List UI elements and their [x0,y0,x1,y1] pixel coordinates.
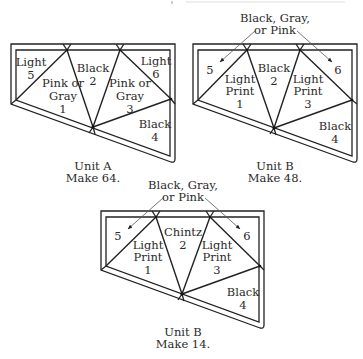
unit-b-48-labels: 5 Light Print 1 Black 2 Light Print 3 6 … [206,61,352,146]
svg-text:Print: Print [134,250,163,264]
svg-text:5: 5 [206,63,213,77]
svg-text:Light: Light [16,55,47,69]
svg-text:2: 2 [89,74,96,88]
svg-text:Make 48.: Make 48. [248,171,302,185]
svg-text:2: 2 [270,74,277,88]
unit-a-caption: Unit A Make 64. [66,159,120,185]
arrow-to-patch-6 [205,198,240,229]
svg-text:Print: Print [203,250,232,264]
svg-text:Pink or: Pink or [42,76,84,90]
svg-text:Gray: Gray [49,89,78,103]
svg-text:Black: Black [319,119,352,133]
svg-text:Print: Print [226,84,255,98]
quilt-units-diagram: Light 5 Pink or Gray 1 Black 2 Pink or G… [0,0,363,359]
svg-text:Light: Light [141,54,172,68]
svg-text:1: 1 [59,102,66,116]
svg-text:6: 6 [334,63,341,77]
svg-text:3: 3 [213,263,220,277]
unit-b-14-callout: Black, Gray, or Pink [128,178,240,229]
svg-text:1: 1 [236,97,243,111]
svg-text:4: 4 [331,132,338,146]
unit-b-14-caption: Unit B Make 14. [156,325,210,351]
cropped-text-fragment [172,1,345,4]
svg-text:Chintz: Chintz [164,225,202,239]
svg-text:Black: Black [258,61,291,75]
svg-text:Gray: Gray [116,89,145,103]
svg-text:4: 4 [239,298,246,312]
svg-text:or Pink: or Pink [162,190,205,204]
svg-text:Black: Black [227,285,260,299]
svg-text:1: 1 [144,263,151,277]
unit-b-48-callout: Black, Gray, or Pink [220,11,332,62]
svg-text:2: 2 [179,238,186,252]
svg-text:Pink or: Pink or [109,76,151,90]
svg-text:5: 5 [27,68,34,82]
unit-b-14-labels: 5 Light Print 1 Chintz 2 Light Print 3 6… [114,225,260,312]
svg-text:6: 6 [152,67,159,81]
svg-text:Make 64.: Make 64. [66,171,120,185]
svg-text:Black: Black [139,117,172,131]
svg-text:or Pink: or Pink [254,23,297,37]
svg-text:Black: Black [77,61,110,75]
svg-text:3: 3 [304,97,311,111]
svg-text:Print: Print [294,84,323,98]
svg-text:Make 14.: Make 14. [156,337,210,351]
svg-text:3: 3 [126,102,133,116]
svg-text:4: 4 [151,130,158,144]
unit-b-48-caption: Unit B Make 48. [248,159,302,185]
svg-text:6: 6 [243,229,250,243]
svg-text:5: 5 [114,229,121,243]
